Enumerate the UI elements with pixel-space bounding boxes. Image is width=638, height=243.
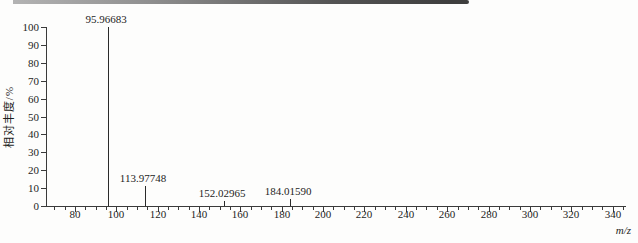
- y-tick: [41, 134, 46, 135]
- y-tick: [41, 152, 46, 153]
- x-tick-label: 260: [427, 209, 467, 220]
- x-tick-label: 300: [510, 209, 550, 220]
- y-axis-line: [46, 27, 47, 206]
- y-tick-label: 30: [13, 147, 39, 158]
- x-tick-label: 240: [386, 209, 426, 220]
- x-tick-label: 180: [262, 209, 302, 220]
- x-axis-line: [46, 206, 626, 207]
- x-tick-label: 120: [138, 209, 178, 220]
- y-tick-label: 80: [13, 58, 39, 69]
- y-tick-label: 60: [13, 94, 39, 105]
- mass-spectrum-chart: 相对丰度/% 010203040506070809010080100120140…: [0, 0, 638, 243]
- peak-label: 113.97748: [101, 172, 185, 184]
- x-tick-label: 100: [96, 209, 136, 220]
- y-tick: [41, 206, 46, 207]
- y-tick-label: 0: [13, 201, 39, 212]
- peak-line: [290, 199, 291, 206]
- y-tick-label: 90: [13, 40, 39, 51]
- y-tick-label: 40: [13, 129, 39, 140]
- y-tick: [41, 45, 46, 46]
- y-tick: [41, 81, 46, 82]
- x-tick-label: 200: [303, 209, 343, 220]
- x-tick-label: 220: [344, 209, 384, 220]
- x-tick-label: 340: [593, 209, 633, 220]
- y-tick: [41, 188, 46, 189]
- scanned-figure-page: 相对丰度/% 010203040506070809010080100120140…: [0, 0, 638, 243]
- x-axis-title: m/z: [616, 224, 631, 236]
- peak-label: 95.96683: [64, 13, 148, 25]
- y-tick-label: 10: [13, 183, 39, 194]
- x-tick-label: 140: [179, 209, 219, 220]
- y-tick: [41, 27, 46, 28]
- peak-line: [224, 201, 225, 206]
- peak-label: 184.01590: [246, 185, 330, 197]
- y-tick: [41, 99, 46, 100]
- x-tick-label: 320: [551, 209, 591, 220]
- y-tick: [41, 117, 46, 118]
- peak-line: [145, 186, 146, 206]
- y-tick-label: 70: [13, 76, 39, 87]
- y-tick-label: 100: [13, 22, 39, 33]
- x-tick-label: 80: [55, 209, 95, 220]
- x-tick-label: 280: [469, 209, 509, 220]
- y-tick: [41, 63, 46, 64]
- y-tick-label: 50: [13, 112, 39, 123]
- y-tick-label: 20: [13, 165, 39, 176]
- x-tick-label: 160: [220, 209, 260, 220]
- y-tick: [41, 170, 46, 171]
